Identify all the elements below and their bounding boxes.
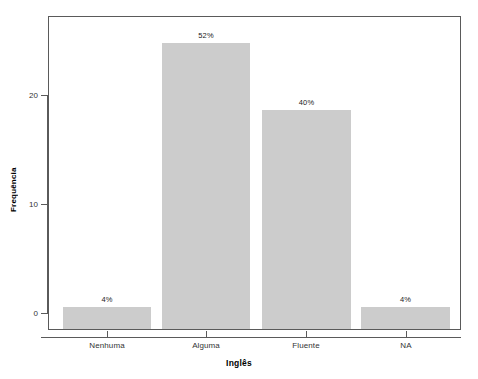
x-tick-mark-fluente <box>306 331 307 337</box>
y-axis: 0 10 20 Frequência <box>0 0 48 379</box>
bar-label-fluente: 40% <box>262 98 351 107</box>
bar-nenhuma[interactable] <box>63 307 151 329</box>
y-axis-title: Frequência <box>6 140 20 240</box>
x-axis-title: Inglês <box>0 358 478 368</box>
y-tick-mark-0 <box>41 313 48 314</box>
y-tick-mark-20 <box>41 95 48 96</box>
y-tick-mark-10 <box>41 204 48 205</box>
y-tick-label-0: 0 <box>34 309 38 318</box>
y-tick-label-10: 10 <box>29 200 38 209</box>
x-axis: Nenhuma Alguma Fluente NA Inglês <box>0 330 478 379</box>
bar-label-nenhuma: 4% <box>63 295 151 304</box>
x-tick-label-alguma: Alguma <box>192 341 220 350</box>
chart-screenshot: 4% 52% 40% 4% 0 10 20 Frequência Nenhuma… <box>0 0 478 379</box>
x-tick-label-fluente: Fluente <box>292 341 319 350</box>
bar-label-alguma: 52% <box>162 31 250 40</box>
plot-area: 4% 52% 40% 4% <box>49 17 460 329</box>
x-tick-mark-nenhuma <box>107 331 108 337</box>
x-tick-mark-na <box>406 331 407 337</box>
x-tick-mark-alguma <box>206 331 207 337</box>
bar-fluente[interactable] <box>262 110 351 329</box>
x-axis-spine <box>41 337 461 338</box>
bar-na[interactable] <box>361 307 450 329</box>
x-tick-label-nenhuma: Nenhuma <box>89 341 124 350</box>
x-tick-label-na: NA <box>400 341 411 350</box>
bar-label-na: 4% <box>361 295 450 304</box>
y-tick-label-20: 20 <box>29 91 38 100</box>
bar-alguma[interactable] <box>162 43 250 329</box>
